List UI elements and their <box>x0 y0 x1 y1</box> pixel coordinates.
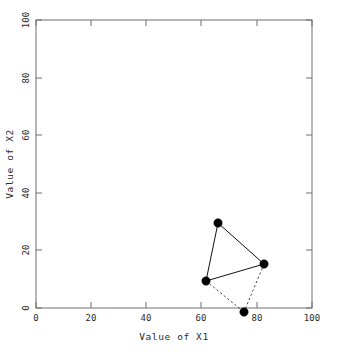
data-point-marker <box>260 260 268 268</box>
data-point-marker <box>214 219 222 227</box>
x-tick-label: 40 <box>141 313 152 323</box>
data-point-marker <box>202 277 210 285</box>
y-tick-label: 60 <box>21 130 31 141</box>
y-tick-label: 0 <box>21 305 31 310</box>
scatter-plot-figure: 0 20 40 60 80 100 0 20 40 60 80 100 Valu… <box>0 0 340 353</box>
y-axis-title: Value of X2 <box>4 129 15 199</box>
x-tick-label: 0 <box>33 313 38 323</box>
data-point-marker <box>240 308 248 316</box>
y-tick-label: 20 <box>21 245 31 256</box>
plot-canvas: 0 20 40 60 80 100 0 20 40 60 80 100 Valu… <box>0 0 340 353</box>
x-tick-label: 80 <box>252 313 263 323</box>
x-tick-label: 100 <box>304 313 320 323</box>
figure-background <box>0 0 340 353</box>
x-tick-label: 20 <box>86 313 97 323</box>
x-axis-title: Value of X1 <box>139 331 209 342</box>
y-tick-label: 80 <box>21 73 31 84</box>
y-tick-label: 40 <box>21 188 31 199</box>
x-tick-label: 60 <box>196 313 207 323</box>
y-tick-label: 100 <box>21 12 31 28</box>
